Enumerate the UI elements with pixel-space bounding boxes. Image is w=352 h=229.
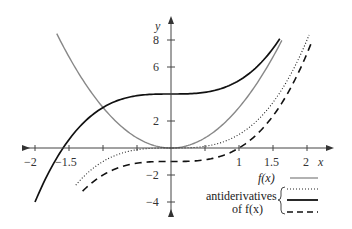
x-tick-label: 1 [236, 155, 242, 169]
curve-3x_2 [57, 34, 282, 148]
y-tick-label: −4 [146, 195, 159, 209]
x-tick-label: 1.5 [264, 155, 279, 169]
y-tick-label: −2 [146, 168, 159, 182]
x-tick-label: 2 [303, 155, 309, 169]
y-axis-label: y [154, 19, 161, 33]
chart: −2 −1.5 1 1.5 2 x 8 6 2 −2 −4 y f(x) ant… [0, 0, 352, 229]
y-tick-label: 2 [153, 114, 159, 128]
x-axis-label: x [317, 155, 324, 169]
legend-of-fx-label: of f(x) [232, 202, 263, 216]
y-tick-label: 6 [153, 60, 159, 74]
x-tick-label: −1.5 [55, 155, 77, 169]
legend-fx-label: f(x) [258, 171, 275, 185]
y-tick-label: 8 [153, 33, 159, 47]
legend: f(x) antiderivatives of f(x) [206, 171, 318, 216]
legend-antiderivatives-label: antiderivatives [206, 189, 277, 203]
x-tick-label: −2 [24, 155, 37, 169]
legend-brace [278, 187, 285, 214]
